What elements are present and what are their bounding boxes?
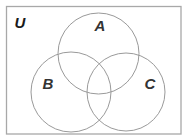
set-c-label: C	[145, 75, 157, 92]
universe-label: U	[15, 14, 27, 31]
set-b-label: B	[43, 75, 54, 92]
venn-diagram: U A B C	[0, 0, 183, 137]
set-a-label: A	[94, 17, 106, 34]
